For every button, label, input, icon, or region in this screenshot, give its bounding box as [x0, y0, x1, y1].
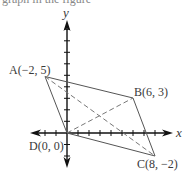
point-label-D: D(0, 0) — [29, 139, 64, 153]
top-cutoff-text: graph in the figure — [2, 0, 91, 6]
y-axis-label: y — [61, 5, 69, 20]
side-AB — [45, 77, 133, 99]
side-DA — [45, 77, 67, 134]
x-axis: x — [30, 125, 182, 140]
point-label-B: B(6, 3) — [134, 85, 168, 99]
point-label-C: C(8, −2) — [137, 157, 178, 171]
side-CD — [67, 133, 155, 156]
point-label-A: A(−2, 5) — [9, 63, 50, 77]
diagonal-BD — [67, 98, 133, 133]
coordinate-diagram: graph in the figure y — [0, 0, 189, 178]
side-BC — [133, 98, 155, 156]
x-axis-label: x — [175, 125, 182, 140]
